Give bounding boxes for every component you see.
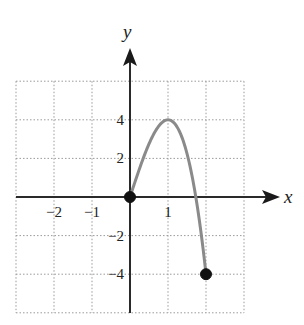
x-tick-label: −1: [84, 204, 100, 220]
x-tick-label: −2: [46, 204, 62, 220]
y-tick-label: −4: [108, 266, 124, 282]
function-graph: x y −2−1142−2−4: [0, 0, 304, 325]
endpoint-dot: [201, 269, 212, 280]
y-axis-label: y: [121, 21, 132, 42]
y-tick-label: 2: [117, 150, 125, 166]
y-tick-label: −2: [108, 228, 124, 244]
x-axis-label: x: [283, 186, 293, 207]
x-tick-label: 1: [164, 204, 172, 220]
axes: x y: [16, 21, 293, 313]
endpoint-dot: [125, 192, 136, 203]
y-tick-label: 4: [117, 112, 125, 128]
